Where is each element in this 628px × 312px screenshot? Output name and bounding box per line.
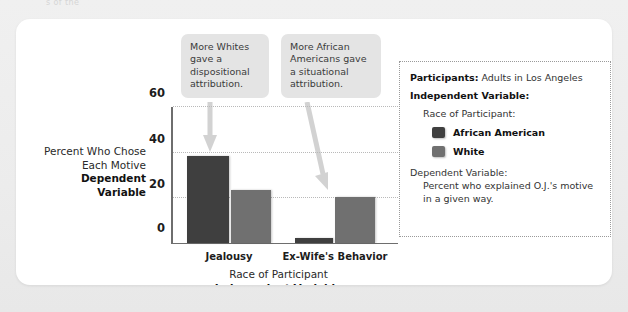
y-axis-title: Percent Who Chose Each Motive Dependent … — [38, 145, 146, 199]
figure-card: More Whites gave a dispositional attribu… — [16, 19, 612, 285]
legend-label-african-american: African American — [453, 126, 545, 139]
participants-line: Participants: Adults in Los Angeles — [410, 71, 600, 84]
x-axis-title-main: Race of Participant — [229, 268, 328, 280]
x-category-exwife: Ex-Wife's Behavior — [282, 251, 387, 262]
dependent-variable-value: Percent who explained O.J.'s motive in a… — [423, 179, 600, 205]
gridline-60 — [173, 106, 398, 107]
x-axis-title-sub: Independent Variable — [215, 282, 343, 286]
y-axis-line — [171, 107, 173, 244]
bar-jealousy-white — [231, 190, 271, 243]
y-tick-60: 60 — [149, 86, 165, 100]
callout-african-americans-situational: More African Americans gave a situationa… — [281, 34, 381, 98]
independent-variable-line: Independent Variable: — [410, 89, 600, 102]
independent-variable-value: Race of Participant: — [423, 107, 600, 120]
legend-swatch-white — [432, 146, 445, 157]
bar-exwife-african-american — [295, 238, 333, 243]
x-axis-line — [171, 243, 398, 245]
info-legend-box: Participants: Adults in Los Angeles Inde… — [399, 61, 611, 237]
x-axis-title: Race of Participant Independent Variable — [171, 268, 386, 285]
participants-label: Participants: — [410, 72, 478, 83]
dependent-variable-block: Dependent Variable: Percent who explaine… — [410, 166, 600, 205]
legend-item-white: White — [432, 145, 600, 158]
bar-jealousy-african-american — [187, 156, 229, 243]
legend-swatch-african-american — [432, 127, 445, 138]
y-tick-0: 0 — [157, 221, 165, 235]
y-axis-title-sub: Dependent Variable — [81, 172, 146, 198]
callout-whites-dispositional: More Whites gave a dispositional attribu… — [181, 34, 269, 98]
cropped-header-text: s of the — [46, 0, 79, 7]
bar-exwife-white — [335, 197, 375, 243]
y-tick-40: 40 — [149, 132, 165, 146]
plot-area: 60 40 20 0 Jealousy Ex-Wife's Behavior — [171, 107, 376, 244]
gridline-40 — [173, 152, 398, 153]
independent-variable-label: Independent Variable: — [410, 90, 529, 101]
y-tick-20: 20 — [149, 177, 165, 191]
y-axis-title-main: Percent Who Chose Each Motive — [44, 145, 146, 171]
x-category-jealousy: Jealousy — [205, 251, 252, 262]
dependent-variable-label: Dependent Variable: — [410, 166, 600, 179]
participants-value: Adults in Los Angeles — [482, 72, 583, 83]
legend-item-african-american: African American — [432, 126, 600, 139]
legend-label-white: White — [453, 145, 484, 158]
